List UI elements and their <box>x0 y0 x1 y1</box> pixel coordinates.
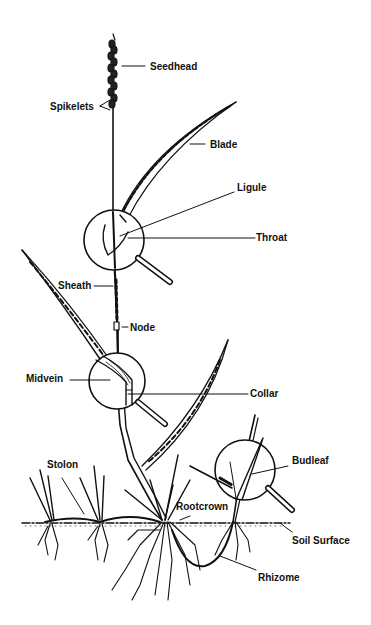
label-blade: Blade <box>210 139 238 150</box>
left-blade <box>22 250 110 362</box>
rhizome <box>172 522 233 566</box>
label-stolon: Stolon <box>47 459 78 470</box>
label-soil-surface: Soil Surface <box>292 535 350 546</box>
budleaf-magnifier <box>190 438 292 510</box>
right-lower-blade <box>142 340 228 470</box>
label-ligule: Ligule <box>237 182 267 193</box>
throat-ligule-magnifier <box>84 210 170 282</box>
label-throat: Throat <box>256 232 288 243</box>
upper-blade <box>120 102 236 218</box>
label-budleaf: Budleaf <box>292 455 329 466</box>
stolon-shoots <box>30 466 104 520</box>
soil-surface-line <box>22 523 290 526</box>
label-rootcrown: Rootcrown <box>176 501 228 512</box>
label-seedhead: Seedhead <box>150 61 197 72</box>
grass-anatomy-diagram: Seedhead Spikelets Blade Ligule Throat S… <box>0 0 371 625</box>
collar-midvein-magnifier <box>89 353 165 424</box>
label-sheath: Sheath <box>58 280 91 291</box>
label-midvein: Midvein <box>26 373 63 384</box>
label-node: Node <box>130 322 155 333</box>
roots <box>38 522 250 600</box>
seedhead <box>108 34 117 108</box>
label-rhizome: Rhizome <box>258 572 300 583</box>
label-collar: Collar <box>250 388 278 399</box>
label-spikelets: Spikelets <box>50 101 94 112</box>
